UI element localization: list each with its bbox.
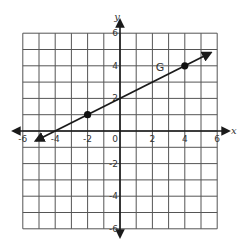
axes (13, 20, 229, 237)
x-tick-label: -4 (51, 134, 60, 144)
coordinate-plane: -6-4-20246-6-4-2246 G x y (0, 0, 242, 248)
x-tick-label: -6 (18, 134, 27, 144)
y-tick-label: -2 (109, 159, 118, 169)
data-point (181, 62, 188, 69)
data-point (84, 111, 91, 118)
y-axis-label: y (113, 11, 120, 22)
x-tick-label: 0 (112, 134, 118, 144)
x-tick-label: 4 (182, 134, 188, 144)
y-tick-label: 6 (112, 28, 118, 38)
y-tick-label: 4 (112, 61, 118, 71)
y-tick-label: -6 (109, 224, 118, 234)
y-tick-label: -4 (109, 191, 118, 201)
x-tick-label: 2 (150, 134, 156, 144)
x-axis-label: x (231, 125, 237, 136)
x-tick-label: -2 (83, 134, 92, 144)
line-label: G (156, 61, 165, 74)
x-tick-label: 6 (214, 134, 220, 144)
